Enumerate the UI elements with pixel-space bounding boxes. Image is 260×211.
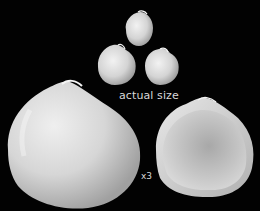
shells-illustration: [0, 0, 260, 211]
small-shell-right: [145, 48, 179, 85]
small-shell-left: [98, 44, 136, 85]
actual-size-label: actual size: [119, 89, 179, 102]
shell-photo: actual size x3: [0, 0, 260, 211]
small-shell-top: [126, 11, 153, 46]
large-shell-interior: [156, 98, 254, 198]
magnification-label: x3: [141, 171, 152, 181]
